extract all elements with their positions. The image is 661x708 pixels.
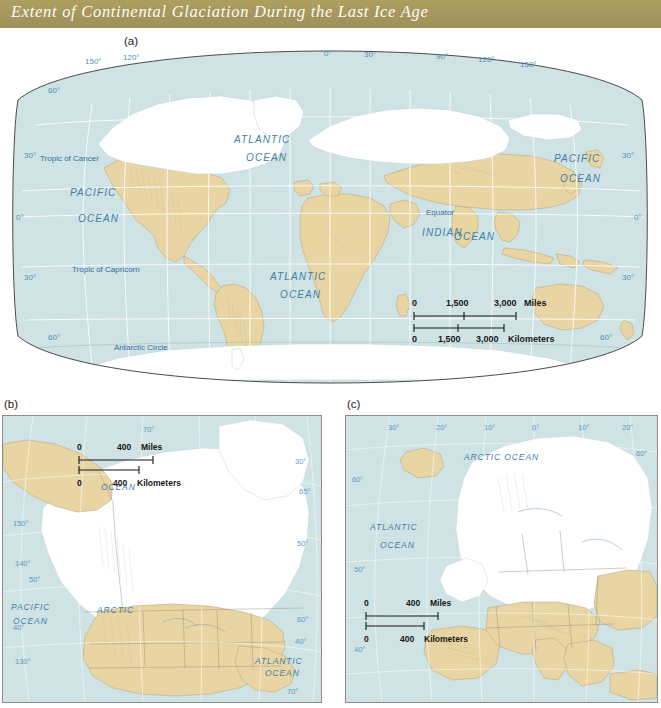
namerica-scale-miles-tick-1: 400	[117, 442, 131, 452]
namerica-grat-label-r70a: 70°	[143, 425, 154, 434]
europe-scale-miles-tick-0: 0	[364, 598, 369, 608]
world-lat-label-left-30s: 30°	[24, 273, 36, 282]
europe-scale-km-tick-1: 400	[400, 634, 414, 644]
world-ocean-label-indian2: OCEAN	[454, 231, 495, 242]
namerica-ocean-label-pacific1: PACIFIC	[11, 602, 50, 612]
world-lon-label-150w: 150°	[85, 57, 102, 66]
world-lat-label-left-0: 0°	[16, 213, 24, 222]
europe-lat-label-40: 40°	[354, 645, 365, 654]
world-lat-label-right-60s: 60°	[600, 333, 612, 342]
world-lat-label-left-30n: 30°	[24, 151, 36, 160]
world-ocean-label-atlantic-n1: ATLANTIC	[233, 134, 290, 145]
page-title: Extent of Continental Glaciation During …	[11, 2, 428, 22]
namerica-grat-label-r65: 65°	[299, 487, 310, 496]
namerica-scale-miles-tick-0: 0	[77, 442, 82, 452]
namerica-grat-label-140: 140°	[15, 559, 31, 568]
world-lat-label-right-30s: 30°	[622, 273, 634, 282]
world-lon-label-30e: 30°	[364, 50, 376, 59]
world-map-panel: 150° 120° 0° 30° 90° 120° 150° 60° 30° 0…	[8, 48, 653, 386]
namerica-ocean-label-atlantic2: OCEAN	[265, 668, 300, 678]
europe-scale-km-tick-0: 0	[364, 634, 369, 644]
world-scale-km-tick-2: 3,000	[476, 334, 499, 344]
world-ocean-label-pacific-e1: PACIFIC	[70, 187, 116, 198]
europe-scale-miles-tick-1: 400	[406, 598, 420, 608]
tropic-of-capricorn-label: Tropic of Capricorn	[72, 265, 140, 274]
namerica-grat-label-150: 150°	[13, 519, 29, 528]
world-ocean-label-atlantic-s2: OCEAN	[280, 289, 321, 300]
equator-label: Equator	[426, 208, 454, 217]
world-ocean-label-pacific-w2: OCEAN	[560, 173, 601, 184]
antarctic-circle-label: Antarctic Circle	[114, 343, 168, 352]
world-scale-km-tick-0: 0	[412, 334, 417, 344]
world-scale-km-unit: Kilometers	[508, 334, 555, 344]
namerica-grat-label-r60: 60°	[297, 615, 308, 624]
world-lon-label-0: 0°	[324, 49, 332, 58]
namerica-ocean-label-atlantic1: ATLANTIC	[254, 656, 303, 666]
europe-lon-label-20w: 20°	[436, 423, 447, 432]
europe-lon-label-20e: 20°	[622, 423, 633, 432]
europe-lon-label-10w: 10°	[484, 423, 495, 432]
namerica-scale-km-tick-1: 400	[113, 478, 127, 488]
europe-lon-label-30w: 30°	[388, 423, 399, 432]
europe-ocean-label-atlantic2: OCEAN	[380, 540, 415, 550]
namerica-grat-label-r40: 40°	[295, 637, 306, 646]
world-lon-label-120e: 120°	[478, 55, 495, 64]
namerica-grat-label-r30: 30°	[295, 457, 306, 466]
world-lon-label-150e: 150°	[520, 60, 537, 69]
world-lat-label-left-60s: 60°	[48, 333, 60, 342]
world-scale-miles-tick-0: 0	[412, 298, 417, 308]
world-ocean-label-pacific-e2: OCEAN	[78, 213, 119, 224]
world-lon-label-90e: 90°	[436, 52, 448, 61]
namerica-ocean-label-arctic1: ARCTIC	[96, 605, 134, 615]
world-lat-label-right-0: 0°	[634, 213, 642, 222]
namerica-grat-label-50: 50°	[29, 575, 40, 584]
europe-ocean-label-arctic: ARCTIC OCEAN	[463, 452, 539, 462]
namerica-scale-miles-unit: Miles	[141, 442, 163, 452]
europe-lat-label-60: 60°	[352, 475, 363, 484]
panel-label-c: (c)	[347, 398, 360, 410]
europe-ocean-label-atlantic1: ATLANTIC	[369, 522, 418, 532]
world-scale-miles-tick-2: 3,000	[494, 298, 517, 308]
namerica-grat-label-r70b: 70°	[287, 687, 298, 696]
panel-label-b: (b)	[4, 398, 18, 410]
world-lat-label-right-30n: 30°	[622, 151, 634, 160]
europe-lat-label-50: 50°	[354, 565, 365, 574]
panel-label-a: (a)	[124, 35, 138, 47]
world-scale-miles-tick-1: 1,500	[446, 298, 469, 308]
figure-title-bar: Extent of Continental Glaciation During …	[0, 0, 661, 28]
north-america-map-panel: ARCTIC OCEAN PACIFIC OCEAN ATLANTIC OCEA…	[2, 415, 322, 703]
tropic-of-cancer-label: Tropic of Cancer	[40, 154, 99, 163]
world-scale-miles-unit: Miles	[524, 298, 547, 308]
europe-lon-label-0: 0°	[532, 423, 539, 432]
world-scale-km-tick-1: 1,500	[438, 334, 461, 344]
namerica-scale-km-tick-0: 0	[77, 478, 82, 488]
europe-lon-label-60e: 60°	[636, 449, 647, 458]
europe-map-panel: ARCTIC OCEAN ATLANTIC OCEAN 30° 20° 10° …	[345, 415, 658, 703]
europe-scale-km-unit: Kilometers	[424, 634, 468, 644]
namerica-grat-label-40: 40°	[13, 623, 24, 632]
namerica-grat-label-130: 130°	[15, 657, 31, 666]
namerica-scale-km-unit: Kilometers	[137, 478, 181, 488]
europe-lon-label-10e: 10°	[578, 423, 589, 432]
namerica-grat-label-r50: 50°	[297, 539, 308, 548]
world-lon-label-120w: 120°	[123, 53, 140, 62]
europe-scale-miles-unit: Miles	[430, 598, 452, 608]
world-ocean-label-pacific-w1: PACIFIC	[554, 153, 600, 164]
world-ocean-label-atlantic-n2: OCEAN	[246, 152, 287, 163]
world-ocean-label-atlantic-s1: ATLANTIC	[269, 271, 326, 282]
world-lat-label-left-60n: 60°	[48, 86, 60, 95]
